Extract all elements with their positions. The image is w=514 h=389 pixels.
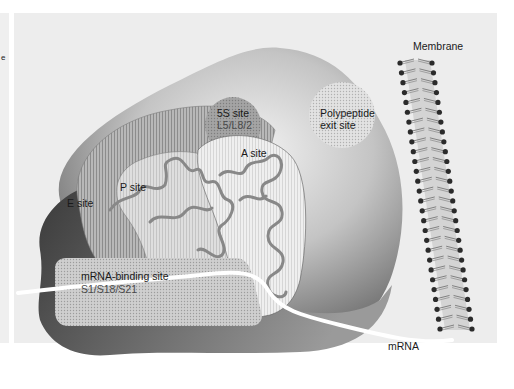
p-site-label: P site xyxy=(120,181,146,193)
mrna-binding-site-label: mRNA-binding site xyxy=(81,270,169,282)
five-s-site-label: 5S site xyxy=(217,107,249,119)
e-site-label: E site xyxy=(67,197,93,209)
polypeptide-exit-label-line2: exit site xyxy=(320,119,356,131)
membrane-label: Membrane xyxy=(413,40,463,52)
five-s-proteins-label: L5/L8/2 xyxy=(217,119,252,131)
mrna-label: mRNA xyxy=(388,340,419,352)
a-site-label: A site xyxy=(241,147,267,159)
mrna-binding-proteins-label: S1/S18/S21 xyxy=(81,283,137,295)
ribosome-diagram xyxy=(0,0,514,389)
polypeptide-exit-label-line1: Polypeptide xyxy=(320,107,375,119)
